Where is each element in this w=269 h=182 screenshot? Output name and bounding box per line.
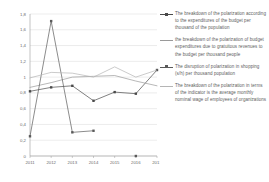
legend-item[interactable]: The disruption of polarization in shoppi… [160, 63, 267, 77]
data-point-marker [50, 86, 52, 88]
legend-line-swatch [160, 86, 173, 87]
x-tick-label: 2014 [89, 160, 99, 165]
y-tick-label: 1,2 [20, 59, 27, 64]
line-chart-svg: 00,20,40,60,811,21,41,61,8 2011201220132… [0, 0, 160, 182]
legend-key-icon [160, 37, 173, 44]
legend-item[interactable]: the breakdown of the polarization of bud… [160, 36, 267, 57]
data-point-marker [92, 130, 94, 132]
data-point-marker [71, 131, 73, 133]
data-point-marker [135, 155, 137, 157]
legend-key-icon [160, 83, 173, 90]
legend-label: the breakdown of the polarization of bud… [175, 36, 267, 57]
chart-legend: The breakdown of the polarization accord… [160, 6, 269, 182]
series-line [30, 70, 157, 101]
y-tick-label: 0 [24, 154, 27, 159]
y-tick-label: 1,8 [20, 12, 27, 17]
legend-label: The breakdown of the polarization accord… [175, 10, 267, 31]
data-point-marker [135, 92, 137, 94]
data-series [29, 20, 158, 157]
data-point-marker [71, 85, 73, 87]
x-tick-labels: 2011201220132014201520162017 [25, 160, 160, 165]
data-point-marker [29, 135, 31, 137]
x-tick-label: 2012 [46, 160, 56, 165]
series-budget-expenditures-per-thousand [29, 69, 158, 102]
chart-container: 00,20,40,60,811,21,41,61,8 2011201220132… [0, 0, 269, 182]
y-tick-label: 0,4 [20, 122, 27, 127]
y-tick-label: 1,6 [20, 27, 27, 32]
y-tick-labels: 00,20,40,60,811,21,41,61,8 [20, 12, 27, 159]
series-line [30, 21, 94, 136]
legend-square-marker-icon [165, 65, 168, 68]
y-tick-label: 1,4 [20, 43, 27, 48]
x-axis [30, 156, 157, 158]
legend-item[interactable]: The breakdown of the polarization in ter… [160, 82, 267, 103]
y-tick-label: 1 [24, 75, 27, 80]
x-tick-label: 2017 [152, 160, 160, 165]
y-tick-label: 0,6 [20, 106, 27, 111]
legend-line-swatch [160, 40, 173, 41]
gridlines [30, 14, 157, 156]
legend-key-icon [160, 64, 173, 71]
x-tick-label: 2013 [68, 160, 78, 165]
legend-key-icon [160, 11, 173, 18]
data-point-marker [50, 20, 52, 22]
data-point-marker [29, 90, 31, 92]
data-point-marker [92, 100, 94, 102]
x-tick-label: 2016 [131, 160, 141, 165]
legend-label: The disruption of polarization in shoppi… [175, 63, 267, 77]
x-tick-label: 2011 [25, 160, 35, 165]
data-point-marker [113, 91, 115, 93]
y-tick-label: 0,2 [20, 138, 27, 143]
legend-item[interactable]: The breakdown of the polarization accord… [160, 10, 267, 31]
x-tick-label: 2015 [110, 160, 120, 165]
legend-square-marker-icon [165, 13, 168, 16]
plot-area: 00,20,40,60,811,21,41,61,8 2011201220132… [0, 0, 160, 182]
legend-label: The breakdown of the polarization in ter… [175, 82, 267, 103]
y-tick-label: 0,8 [20, 90, 27, 95]
